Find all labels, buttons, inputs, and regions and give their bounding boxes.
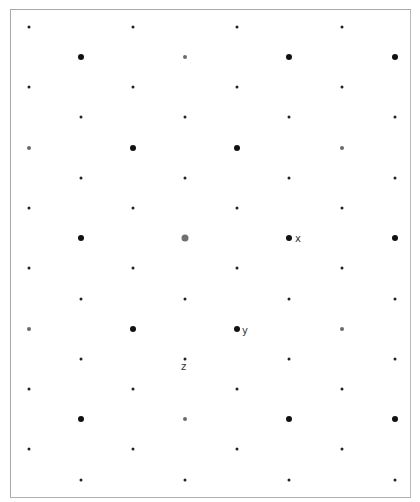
- lattice-dot-small: [28, 448, 31, 451]
- lattice-dot-small: [132, 388, 135, 391]
- lattice-dot-large: [286, 235, 292, 241]
- lattice-dot-large: [78, 235, 84, 241]
- lattice-dot-small: [28, 267, 31, 270]
- lattice-dot-small: [132, 86, 135, 89]
- lattice-dot-medium: [183, 417, 187, 421]
- lattice-dot-large: [78, 54, 84, 60]
- lattice-dot-medium: [27, 146, 31, 150]
- lattice-dot-small: [28, 207, 31, 210]
- lattice-dot-small: [341, 86, 344, 89]
- lattice-dot-small: [28, 388, 31, 391]
- lattice-dot-small: [80, 298, 83, 301]
- lattice-dot-large: [392, 54, 398, 60]
- lattice-dot-large: [234, 326, 240, 332]
- diagram-frame: [10, 9, 411, 498]
- lattice-dot-small: [236, 388, 239, 391]
- lattice-dot-small: [341, 388, 344, 391]
- lattice-dot-small: [236, 448, 239, 451]
- lattice-dot-small: [394, 177, 397, 180]
- lattice-dot-small: [80, 177, 83, 180]
- lattice-dot-medium: [27, 327, 31, 331]
- lattice-dot-small: [288, 479, 291, 482]
- lattice-dot-small: [28, 86, 31, 89]
- lattice-dot-small: [132, 267, 135, 270]
- lattice-dot-large: [130, 145, 136, 151]
- lattice-dot-small: [394, 116, 397, 119]
- lattice-dot-small: [132, 26, 135, 29]
- lattice-dot-small: [236, 207, 239, 210]
- lattice-dot-large: [392, 235, 398, 241]
- lattice-dot-small: [341, 26, 344, 29]
- point-label-y: y: [242, 326, 248, 336]
- lattice-dot-small: [288, 116, 291, 119]
- lattice-dot-small: [80, 358, 83, 361]
- point-label-x: x: [295, 234, 301, 244]
- lattice-dot-small: [288, 177, 291, 180]
- lattice-dot-large: [130, 326, 136, 332]
- lattice-dot-small: [341, 448, 344, 451]
- lattice-dot-small: [80, 116, 83, 119]
- lattice-dot-small: [236, 267, 239, 270]
- lattice-dot-small: [184, 177, 187, 180]
- lattice-dot-small: [341, 207, 344, 210]
- lattice-dot-medium: [340, 327, 344, 331]
- lattice-dot-small: [236, 26, 239, 29]
- lattice-dot-large: [286, 54, 292, 60]
- lattice-dot-small: [288, 298, 291, 301]
- point-label-z: z: [181, 362, 186, 372]
- lattice-dot-small: [236, 86, 239, 89]
- lattice-dot-small: [132, 207, 135, 210]
- lattice-dot-large-gray: [182, 235, 189, 242]
- lattice-dot-small: [28, 26, 31, 29]
- lattice-dot-small: [394, 358, 397, 361]
- lattice-dot-small: [184, 479, 187, 482]
- lattice-dot-small: [184, 298, 187, 301]
- lattice-dot-large: [78, 416, 84, 422]
- lattice-dot-large: [234, 145, 240, 151]
- lattice-dot-large: [392, 416, 398, 422]
- lattice-dot-small: [132, 448, 135, 451]
- lattice-dot-small: [394, 479, 397, 482]
- lattice-dot-small: [394, 298, 397, 301]
- lattice-dot-small: [184, 116, 187, 119]
- lattice-dot-small: [288, 358, 291, 361]
- lattice-dot-large: [286, 416, 292, 422]
- lattice-dot-medium: [183, 55, 187, 59]
- lattice-dot-small: [341, 267, 344, 270]
- lattice-dot-small: [80, 479, 83, 482]
- lattice-dot-medium: [340, 146, 344, 150]
